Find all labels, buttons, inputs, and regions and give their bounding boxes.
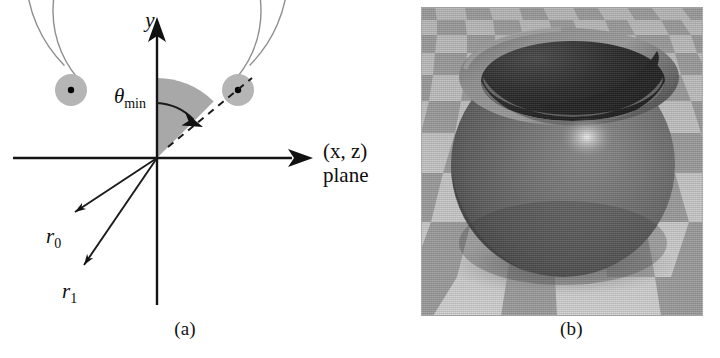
r1-ray bbox=[84, 158, 157, 265]
panel-b-render: (b) bbox=[400, 0, 720, 358]
theta-min-label: θmin bbox=[114, 84, 146, 111]
r0-label: r0 bbox=[46, 224, 61, 251]
bowl-render-svg bbox=[421, 7, 703, 316]
theta-min-cross-section-svg: θmin r0 r1 y (x, z) plane bbox=[0, 0, 400, 320]
r1-label: r1 bbox=[62, 279, 77, 306]
panel-a-caption: (a) bbox=[0, 318, 385, 340]
theta-min-wedge bbox=[157, 78, 214, 158]
left-endcap-center-dot bbox=[68, 87, 74, 93]
bowl-specular-highlight bbox=[561, 117, 613, 157]
xz-plane-label-line2: plane bbox=[323, 163, 368, 187]
bowl-bottom-shading bbox=[459, 201, 667, 285]
bowl-render-image bbox=[421, 7, 703, 316]
xz-plane-label-line1: (x, z) bbox=[323, 139, 367, 163]
r0-ray bbox=[75, 158, 157, 212]
panel-a-diagram: θmin r0 r1 y (x, z) plane (a) bbox=[0, 0, 400, 358]
y-axis-label: y bbox=[143, 8, 155, 32]
figure-root: θmin r0 r1 y (x, z) plane (a) bbox=[0, 0, 720, 358]
